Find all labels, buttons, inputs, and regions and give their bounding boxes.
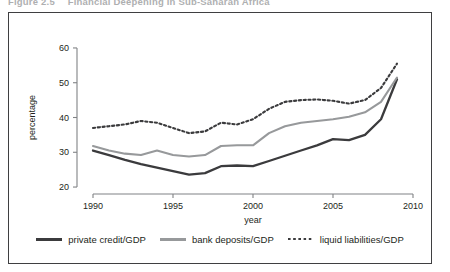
figure-caption: Figure 2.5 Financial Deepening in Sub-Sa… bbox=[8, 0, 270, 7]
y-tick-label: 60 bbox=[59, 43, 69, 53]
y-axis-title: percentage bbox=[27, 95, 37, 140]
x-axis-title: year bbox=[244, 215, 262, 225]
chart-axis-labels: 203040506019901995200020052010yearpercen… bbox=[27, 43, 423, 225]
series-line bbox=[93, 64, 397, 134]
series-line bbox=[93, 78, 397, 157]
x-tick-label: 2010 bbox=[403, 201, 423, 211]
legend-item[interactable]: private credit/GDP bbox=[36, 234, 146, 245]
figure-caption-number: Figure 2.5 bbox=[8, 0, 55, 7]
chart-series bbox=[93, 64, 397, 175]
line-chart: 203040506019901995200020052010yearpercen… bbox=[9, 13, 430, 262]
legend-line-swatch-icon bbox=[160, 237, 186, 243]
y-tick-label: 50 bbox=[59, 78, 69, 88]
legend-item-label: bank deposits/GDP bbox=[192, 234, 274, 245]
legend-item[interactable]: liquid liabilities/GDP bbox=[288, 234, 404, 245]
legend-item-label: private credit/GDP bbox=[68, 234, 146, 245]
x-tick-label: 2000 bbox=[243, 201, 263, 211]
legend-line-swatch-icon bbox=[36, 237, 62, 243]
series-line bbox=[93, 79, 397, 174]
x-tick-label: 1995 bbox=[163, 201, 183, 211]
legend-item[interactable]: bank deposits/GDP bbox=[160, 234, 274, 245]
legend-item-label: liquid liabilities/GDP bbox=[320, 234, 404, 245]
x-tick-label: 1990 bbox=[83, 201, 103, 211]
y-tick-label: 20 bbox=[59, 182, 69, 192]
legend-line-swatch-icon bbox=[288, 237, 314, 243]
chart-frame: 203040506019901995200020052010yearpercen… bbox=[8, 12, 432, 264]
x-tick-label: 2005 bbox=[323, 201, 343, 211]
y-tick-label: 30 bbox=[59, 147, 69, 157]
figure-caption-text: Financial Deepening in Sub-Saharan Afric… bbox=[68, 0, 270, 7]
y-tick-label: 40 bbox=[59, 113, 69, 123]
chart-legend: private credit/GDPbank deposits/GDPliqui… bbox=[9, 234, 431, 245]
